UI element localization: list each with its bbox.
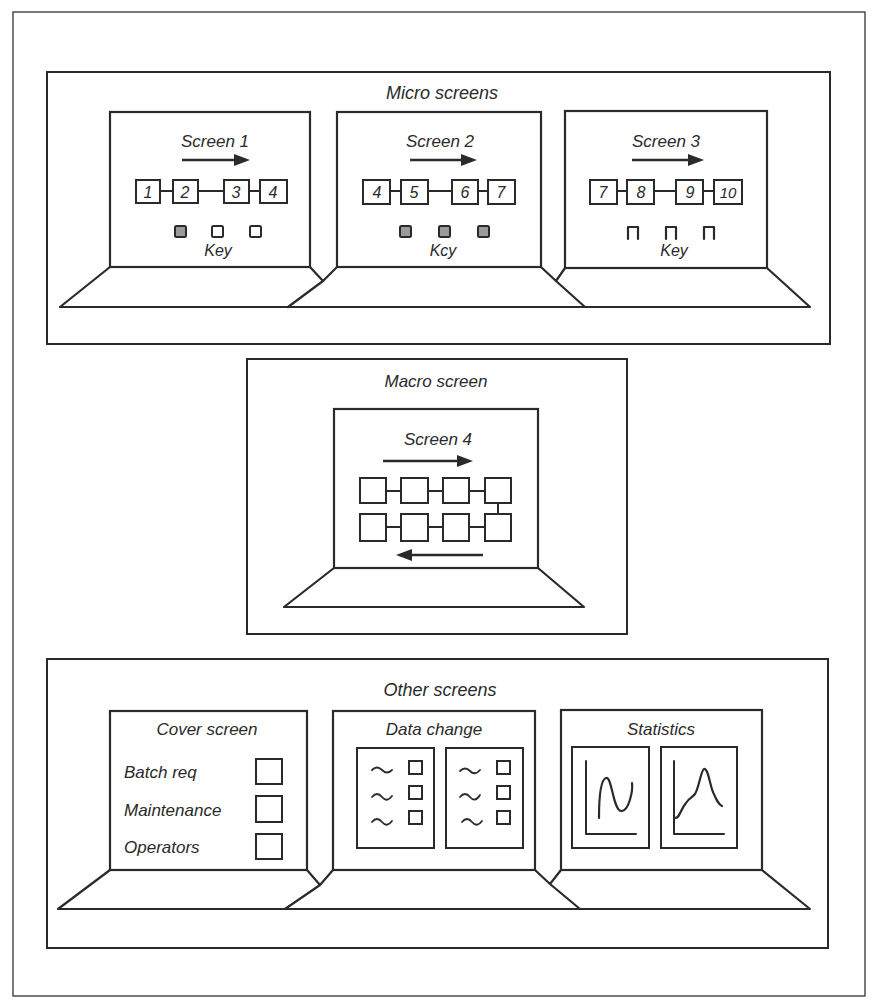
svg-text:2: 2 (180, 184, 190, 201)
macro-screen-panel: Macro screen Screen 4 (247, 359, 627, 634)
svg-text:5: 5 (410, 184, 419, 201)
key-button-shaded[interactable] (175, 226, 186, 237)
svg-text:4: 4 (269, 184, 278, 201)
checkbox[interactable] (256, 759, 282, 784)
node-box[interactable]: 6 (452, 180, 478, 204)
macro-screen-4[interactable]: Screen 4 (334, 409, 538, 568)
key-button-shaded[interactable] (439, 226, 450, 237)
node-box[interactable]: 8 (627, 180, 654, 204)
flow-node[interactable] (401, 478, 428, 503)
screen-title: Screen 1 (181, 132, 249, 151)
svg-text:10: 10 (720, 184, 737, 201)
svg-text:9: 9 (686, 184, 695, 201)
svg-text:7: 7 (599, 184, 609, 201)
menu-item-label: Maintenance (124, 801, 221, 820)
flow-node[interactable] (443, 478, 469, 503)
key-button[interactable] (250, 226, 261, 237)
key-label: Key (660, 242, 689, 259)
flow-node[interactable] (443, 514, 469, 541)
screen-title: Statistics (627, 720, 696, 739)
screen-title: Data change (386, 720, 482, 739)
chart-oscillating[interactable] (572, 747, 649, 848)
micro-panel-title: Micro screens (386, 83, 498, 103)
node-box[interactable]: 10 (714, 180, 742, 204)
form-frame (446, 748, 523, 848)
flow-node[interactable] (485, 514, 511, 541)
data-form-2[interactable] (446, 748, 523, 848)
checkbox[interactable] (256, 834, 282, 859)
field-checkbox[interactable] (497, 761, 510, 774)
key-label: Kcy (430, 242, 458, 259)
key-label: Key (204, 242, 233, 259)
svg-text:1: 1 (144, 184, 153, 201)
cover-screen[interactable]: Cover screen Batch req Maintenance Opera… (110, 711, 307, 870)
chart-frame (661, 747, 737, 848)
field-checkbox[interactable] (409, 811, 422, 824)
node-box[interactable]: 3 (224, 180, 249, 203)
svg-text:3: 3 (232, 184, 241, 201)
micro-screen-3[interactable]: Screen 3 7 8 9 10 Key (565, 111, 767, 268)
node-box[interactable]: 1 (136, 180, 160, 203)
checkbox[interactable] (256, 796, 282, 822)
field-checkbox[interactable] (409, 786, 422, 799)
node-box[interactable]: 7 (488, 180, 515, 204)
screen-title: Cover screen (156, 720, 257, 739)
svg-text:8: 8 (637, 184, 646, 201)
flow-node[interactable] (360, 478, 386, 503)
screen-title: Screen 2 (406, 132, 475, 151)
micro-screens-panel: Micro screens Screen 1 1 2 3 4 Key (47, 72, 830, 344)
menu-item-label: Operators (124, 838, 200, 857)
svg-text:4: 4 (373, 184, 382, 201)
node-box[interactable]: 2 (173, 180, 198, 203)
node-box[interactable]: 9 (676, 180, 703, 204)
diagram-canvas: Micro screens Screen 1 1 2 3 4 Key (0, 0, 876, 1001)
key-button-shaded[interactable] (478, 226, 489, 237)
data-form-1[interactable] (357, 748, 434, 848)
data-change-screen[interactable]: Data change (333, 711, 535, 870)
field-checkbox[interactable] (497, 811, 510, 824)
flow-node[interactable] (401, 514, 428, 541)
node-box[interactable]: 5 (401, 180, 428, 204)
statistics-screen[interactable]: Statistics (561, 710, 762, 870)
micro-screen-2[interactable]: Screen 2 4 5 6 7 Kcy (337, 112, 541, 267)
menu-item-label: Batch req (124, 763, 197, 782)
field-checkbox[interactable] (409, 761, 422, 774)
macro-panel-title: Macro screen (385, 372, 488, 391)
node-box[interactable]: 4 (363, 180, 390, 204)
svg-text:7: 7 (497, 184, 507, 201)
other-screens-panel: Other screens Cover screen Batch req Mai… (47, 659, 828, 948)
other-panel-title: Other screens (383, 680, 496, 700)
field-checkbox[interactable] (497, 786, 510, 799)
flow-node[interactable] (485, 478, 511, 503)
flow-node[interactable] (360, 514, 386, 541)
key-button[interactable] (212, 226, 223, 237)
screen-title: Screen 4 (404, 430, 472, 449)
node-box[interactable]: 7 (590, 180, 617, 204)
svg-text:6: 6 (461, 184, 470, 201)
key-button-shaded[interactable] (400, 226, 411, 237)
screen-title: Screen 3 (632, 132, 701, 151)
chart-frame (572, 747, 649, 848)
chart-peak[interactable] (661, 747, 737, 848)
node-box[interactable]: 4 (260, 180, 287, 203)
micro-screen-1[interactable]: Screen 1 1 2 3 4 Key (110, 112, 310, 267)
